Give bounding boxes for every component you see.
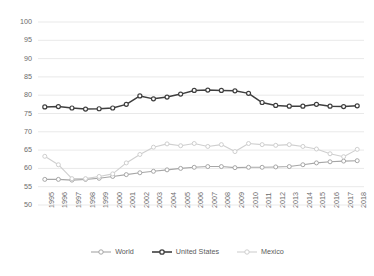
data-point-marker <box>219 143 223 147</box>
legend-marker-icon <box>90 248 112 256</box>
legend-marker-icon <box>236 248 258 256</box>
legend-marker-icon <box>151 248 173 256</box>
data-point-marker <box>342 159 346 163</box>
data-point-marker <box>111 106 115 110</box>
data-point-marker <box>165 95 169 99</box>
data-point-marker <box>179 92 183 96</box>
data-point-marker <box>70 106 74 110</box>
line-chart: 10095908580757065605550 1995199619971998… <box>0 0 374 276</box>
data-point-marker <box>151 97 155 101</box>
data-point-marker <box>301 104 305 108</box>
data-point-marker <box>43 177 47 181</box>
data-point-marker <box>165 142 169 146</box>
data-point-marker <box>328 152 332 156</box>
data-point-marker <box>97 107 101 111</box>
data-point-marker <box>274 143 278 147</box>
data-point-marker <box>328 104 332 108</box>
legend-label: Mexico <box>261 248 284 255</box>
data-point-marker <box>138 94 142 98</box>
data-point-marker <box>165 168 169 172</box>
data-point-marker <box>219 88 223 92</box>
data-point-marker <box>192 165 196 169</box>
data-point-marker <box>192 88 196 92</box>
data-point-marker <box>287 104 291 108</box>
data-point-marker <box>84 107 88 111</box>
data-point-marker <box>206 88 210 92</box>
series-line <box>45 90 357 109</box>
data-point-marker <box>233 89 237 93</box>
legend-label: World <box>115 248 134 255</box>
data-point-marker <box>138 171 142 175</box>
data-point-marker <box>287 143 291 147</box>
data-point-marker <box>247 165 251 169</box>
data-point-marker <box>219 165 223 169</box>
data-point-marker <box>206 165 210 169</box>
legend-label: United States <box>176 248 219 255</box>
data-point-marker <box>314 147 318 151</box>
data-point-marker <box>274 103 278 107</box>
legend-item-mexico[interactable]: Mexico <box>236 248 284 256</box>
chart-legend: WorldUnited StatesMexico <box>0 248 374 256</box>
legend-item-united-states[interactable]: United States <box>151 248 219 256</box>
data-point-marker <box>314 161 318 165</box>
data-point-marker <box>206 144 210 148</box>
plot-area <box>0 0 374 276</box>
data-point-marker <box>56 177 60 181</box>
data-point-marker <box>355 159 359 163</box>
data-point-marker <box>260 101 264 105</box>
data-point-marker <box>314 102 318 106</box>
data-point-marker <box>124 102 128 106</box>
data-point-marker <box>56 163 60 167</box>
data-point-marker <box>233 150 237 154</box>
data-point-marker <box>355 104 359 108</box>
legend-item-world[interactable]: World <box>90 248 134 256</box>
data-point-marker <box>151 169 155 173</box>
data-point-marker <box>274 165 278 169</box>
data-point-marker <box>138 152 142 156</box>
data-point-marker <box>342 155 346 159</box>
data-point-marker <box>247 91 251 95</box>
data-point-marker <box>233 166 237 170</box>
data-point-marker <box>97 174 101 178</box>
series-mexico <box>43 142 359 181</box>
data-point-marker <box>328 160 332 164</box>
data-point-marker <box>301 144 305 148</box>
data-point-marker <box>301 163 305 167</box>
series-world <box>43 159 359 182</box>
data-point-marker <box>192 142 196 146</box>
data-point-marker <box>260 143 264 147</box>
data-point-marker <box>179 144 183 148</box>
data-point-marker <box>342 105 346 109</box>
data-point-marker <box>56 105 60 109</box>
data-point-marker <box>260 165 264 169</box>
data-point-marker <box>247 142 251 146</box>
data-point-marker <box>84 177 88 181</box>
data-point-marker <box>287 165 291 169</box>
series-line <box>45 144 357 179</box>
data-point-marker <box>111 172 115 176</box>
data-point-marker <box>124 173 128 177</box>
data-point-marker <box>151 145 155 149</box>
data-point-marker <box>70 177 74 181</box>
data-point-marker <box>43 154 47 158</box>
data-point-marker <box>355 147 359 151</box>
data-point-marker <box>179 166 183 170</box>
data-point-marker <box>124 161 128 165</box>
series-united-states <box>43 88 359 111</box>
data-point-marker <box>43 105 47 109</box>
